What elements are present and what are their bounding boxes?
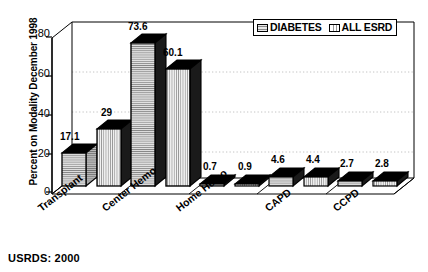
legend-entry-all-esrd: ALL ESRD <box>329 22 393 33</box>
legend-swatch-all-esrd-icon <box>329 24 340 32</box>
value-label-capd-diabetes: 4.6 <box>271 155 285 165</box>
value-label-ccpd-allesrd: 2.8 <box>375 159 389 169</box>
legend-entry-diabetes: DIABETES <box>257 22 322 33</box>
bar-chart: Percent on Modality December 1998 0 20 4… <box>0 0 428 272</box>
value-label-transplant-allesrd: 29 <box>101 108 112 118</box>
bar-centerhemo-diabetes <box>131 34 166 186</box>
value-label-capd-allesrd: 4.4 <box>306 155 320 165</box>
legend-label-all-esrd: ALL ESRD <box>342 22 393 33</box>
chart-legend: DIABETES ALL ESRD <box>253 19 397 36</box>
value-label-centerhemo-diabetes: 73.6 <box>128 22 147 32</box>
value-label-transplant-diabetes: 17.1 <box>60 132 79 142</box>
bar-centerhemo-allesrd <box>166 60 201 186</box>
value-label-ccpd-diabetes: 2.7 <box>340 159 354 169</box>
legend-swatch-diabetes-icon <box>257 24 268 32</box>
source-note: USRDS: 2000 <box>8 252 80 264</box>
value-label-homehemo-allesrd: 0.9 <box>238 162 252 172</box>
value-label-centerhemo-allesrd: 60.1 <box>163 48 182 58</box>
legend-label-diabetes: DIABETES <box>270 22 322 33</box>
bar-transplant-allesrd <box>97 120 132 186</box>
